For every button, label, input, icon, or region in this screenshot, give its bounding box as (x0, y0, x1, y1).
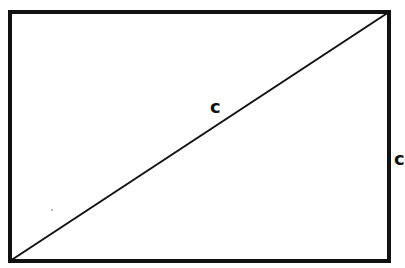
diagonal-label: c (210, 98, 221, 116)
side-label-partial: c (394, 150, 405, 168)
speck-dot (51, 209, 53, 211)
diagonal-line (10, 12, 389, 261)
